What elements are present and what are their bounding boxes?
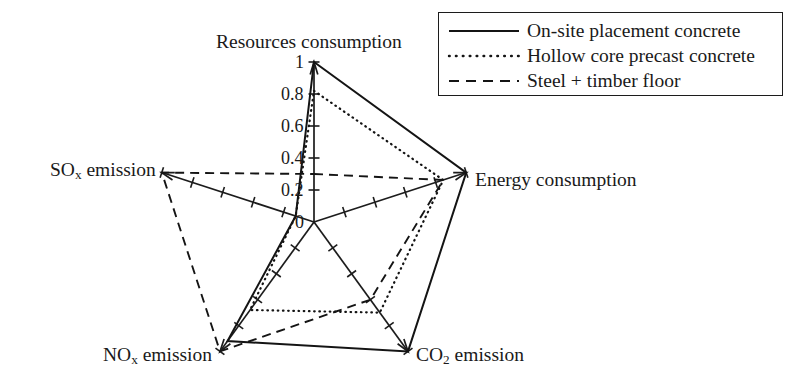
tick-mark-axis2-v0.2 xyxy=(328,245,337,251)
axis-label-nox-suffix: emission xyxy=(138,344,212,365)
radial-tick-label-0-6: 0.6 xyxy=(281,117,304,135)
tick-mark-axis2-v0.6 xyxy=(366,296,375,303)
axis-label-sox-emission: SOx emission xyxy=(50,160,156,181)
axis-label-co2-suffix: emission xyxy=(450,344,524,365)
radar-chart-figure: Resources consumption Energy consumption… xyxy=(0,0,799,389)
axis-label-nox-subscript: x xyxy=(131,351,138,366)
legend-item-on-site-placement-concrete: On-site placement concrete xyxy=(447,19,740,43)
axis-spoke-2 xyxy=(314,222,408,351)
legend-label-2: Steel + timber floor xyxy=(527,71,680,91)
series-polygon-1 xyxy=(250,91,443,313)
radial-tick-label-1: 1 xyxy=(295,53,304,71)
axis-label-co2-prefix: CO xyxy=(416,344,443,365)
axis-label-sox-prefix: SO xyxy=(50,159,75,180)
radial-tick-label-0-8: 0.8 xyxy=(281,85,304,103)
axes-group xyxy=(162,62,466,351)
legend-swatch-dotted-line-icon xyxy=(447,49,521,63)
legend-item-hollow-core-precast-concrete: Hollow core precast concrete xyxy=(447,44,755,68)
tick-mark-axis3-v0.4 xyxy=(272,271,281,278)
tick-mark-axis2-v0.4 xyxy=(347,271,356,278)
axis-label-sox-suffix: emission xyxy=(82,159,156,180)
legend: On-site placement concrete Hollow core p… xyxy=(438,12,783,96)
radial-tick-label-0-2: 0.2 xyxy=(281,181,304,199)
axis-label-sox-subscript: x xyxy=(75,166,82,181)
axis-spoke-3 xyxy=(220,222,314,351)
legend-swatch-dashed-line-icon xyxy=(447,74,521,88)
radial-tick-label-0: 0 xyxy=(295,213,304,231)
legend-label-0: On-site placement concrete xyxy=(527,21,740,41)
axis-label-co2-emission: CO2 emission xyxy=(416,345,524,366)
axis-label-co2-subscript: 2 xyxy=(443,351,450,366)
legend-label-1: Hollow core precast concrete xyxy=(527,46,755,66)
axis-label-resources-consumption: Resources consumption xyxy=(216,32,402,52)
legend-item-steel-timber-floor: Steel + timber floor xyxy=(447,69,680,93)
axis-label-nox-emission: NOx emission xyxy=(103,345,212,366)
radial-tick-label-0-4: 0.4 xyxy=(281,149,304,167)
axis-label-nox-prefix: NO xyxy=(103,344,131,365)
tick-mark-axis2-v0.8 xyxy=(385,322,394,329)
axis-label-energy-consumption: Energy consumption xyxy=(475,170,637,190)
legend-swatch-solid-line-icon xyxy=(447,24,521,38)
tick-mark-axis3-v0.2 xyxy=(291,245,300,251)
